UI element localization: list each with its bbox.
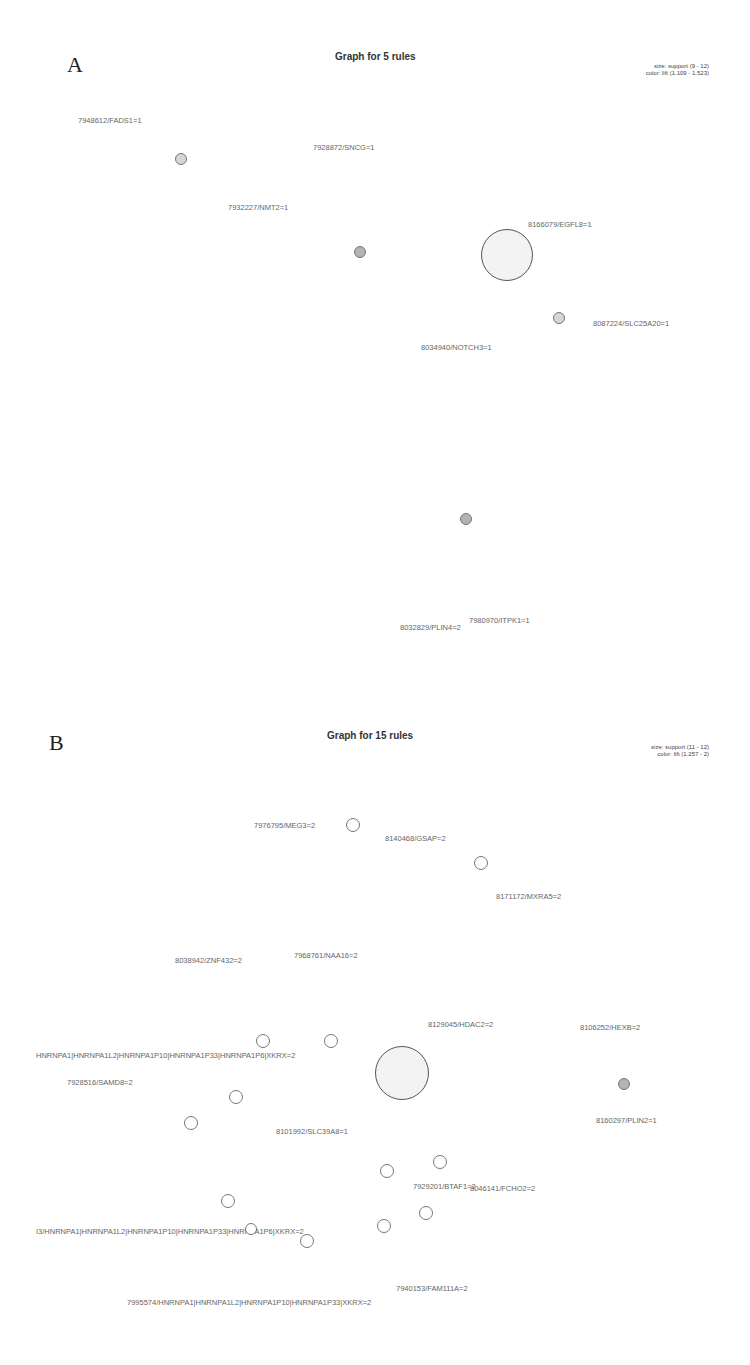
graph-legend: size: support (11 - 12) color: lift (1.2… bbox=[651, 744, 709, 758]
rule-node[interactable] bbox=[380, 1164, 394, 1178]
node-label: 7932227/NMT2=1 bbox=[228, 203, 288, 212]
node-label: 8129045/HDAC2=2 bbox=[428, 1020, 493, 1029]
node-label: 8140468/GSAP=2 bbox=[385, 834, 446, 843]
rule-node[interactable] bbox=[474, 856, 488, 870]
node-label: 7976795/MEG3=2 bbox=[254, 821, 315, 830]
rule-node[interactable] bbox=[419, 1206, 433, 1220]
panel-b-graph: B Graph for 15 rules size: support (11 -… bbox=[0, 700, 750, 1365]
node-label: 8046141/FCHO2=2 bbox=[470, 1184, 535, 1193]
rule-node[interactable] bbox=[175, 153, 187, 165]
node-label: 8032829/PLIN4=2 bbox=[400, 623, 461, 632]
graph-title: Graph for 15 rules bbox=[327, 730, 413, 741]
rule-node[interactable] bbox=[481, 229, 533, 281]
node-label: 7968761/NAA16=2 bbox=[294, 951, 358, 960]
node-label: 7948612/FADS1=1 bbox=[78, 116, 142, 125]
legend-color: color: lift (1.109 - 1.523) bbox=[646, 70, 709, 77]
node-label: 8038942/ZNF432=2 bbox=[175, 956, 242, 965]
rule-node[interactable] bbox=[184, 1116, 198, 1130]
node-label: 7929201/BTAF1=2 bbox=[413, 1182, 476, 1191]
node-label: 8034940/NOTCH3=1 bbox=[421, 343, 492, 352]
rule-node[interactable] bbox=[460, 513, 472, 525]
rule-node[interactable] bbox=[618, 1078, 630, 1090]
rule-node[interactable] bbox=[324, 1034, 338, 1048]
rule-node[interactable] bbox=[300, 1234, 314, 1248]
node-label: 8166079/EGFL8=1 bbox=[528, 220, 592, 229]
legend-size: size: support (11 - 12) bbox=[651, 744, 709, 751]
panel-letter: A bbox=[67, 52, 83, 78]
panel-a-graph: A Graph for 5 rules size: support (9 - 1… bbox=[0, 0, 750, 700]
node-label: HNRNPA1|HNRNPA1L2|HNRNPA1P10|HNRNPA1P33|… bbox=[36, 1051, 295, 1060]
node-label: 7928872/SNCG=1 bbox=[313, 143, 375, 152]
legend-color: color: lift (1.257 - 2) bbox=[651, 751, 709, 758]
rule-node[interactable] bbox=[354, 246, 366, 258]
node-label: 7980970/ITPK1=1 bbox=[469, 616, 530, 625]
node-label: 8171172/MXRA5=2 bbox=[496, 892, 561, 901]
node-label: I3/HNRNPA1|HNRNPA1L2|HNRNPA1P10|HNRNPA1P… bbox=[36, 1227, 304, 1236]
rule-node[interactable] bbox=[256, 1034, 270, 1048]
rule-node[interactable] bbox=[377, 1219, 391, 1233]
node-label: 7940153/FAM111A=2 bbox=[396, 1284, 468, 1293]
rule-node[interactable] bbox=[553, 312, 565, 324]
legend-size: size: support (9 - 12) bbox=[646, 63, 709, 70]
rule-node[interactable] bbox=[346, 818, 360, 832]
rule-node[interactable] bbox=[229, 1090, 243, 1104]
node-label: 8101992/SLC39A8=1 bbox=[276, 1127, 348, 1136]
node-label: 7995574/HNRNPA1|HNRNPA1L2|HNRNPA1P10|HNR… bbox=[127, 1298, 371, 1307]
graph-legend: size: support (9 - 12) color: lift (1.10… bbox=[646, 63, 709, 77]
rule-node[interactable] bbox=[375, 1046, 429, 1100]
rule-node[interactable] bbox=[221, 1194, 235, 1208]
node-label: 8160297/PLIN2=1 bbox=[596, 1116, 657, 1125]
rule-node[interactable] bbox=[245, 1223, 257, 1235]
panel-letter: B bbox=[49, 730, 64, 756]
graph-title: Graph for 5 rules bbox=[335, 51, 416, 62]
node-label: 7928516/SAMD8=2 bbox=[67, 1078, 133, 1087]
rule-node[interactable] bbox=[433, 1155, 447, 1169]
node-label: 8106252/HEXB=2 bbox=[580, 1023, 640, 1032]
node-label: 8087224/SLC25A20=1 bbox=[593, 319, 669, 328]
